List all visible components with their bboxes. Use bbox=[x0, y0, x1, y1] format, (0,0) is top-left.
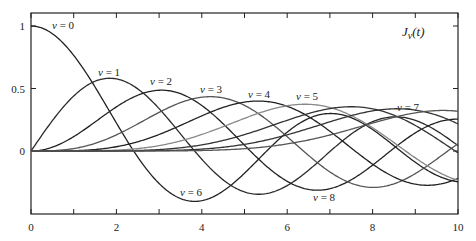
curve-label-v5: v = 5 bbox=[296, 90, 319, 102]
axis-tick-labels: 024681010.50 bbox=[11, 20, 464, 233]
bessel-chart: 024681010.50 v = 0v = 1v = 2v = 3v = 4v … bbox=[0, 0, 476, 241]
bessel-curves bbox=[31, 26, 458, 201]
x-tick-label: 0 bbox=[28, 221, 34, 233]
y-tick-label: 0 bbox=[20, 145, 26, 157]
x-tick-label: 6 bbox=[284, 221, 290, 233]
curve-label-v3: v = 3 bbox=[200, 83, 223, 95]
curve-label-v2: v = 2 bbox=[150, 75, 172, 87]
x-tick-label: 10 bbox=[453, 221, 465, 233]
x-tick-label: 2 bbox=[114, 221, 120, 233]
x-tick-label: 4 bbox=[199, 221, 205, 233]
y-tick-label: 0.5 bbox=[11, 83, 25, 95]
curve-label-v7: v = 7 bbox=[397, 101, 420, 113]
curve-v0 bbox=[31, 26, 458, 201]
curve-label-v4: v = 4 bbox=[248, 88, 271, 100]
curve-label-v8: v = 8 bbox=[313, 191, 336, 203]
curve-labels: v = 0v = 1v = 2v = 3v = 4v = 5v = 6v = 7… bbox=[52, 19, 420, 203]
curve-label-v6: v = 6 bbox=[180, 186, 203, 198]
curve-label-v0: v = 0 bbox=[52, 19, 75, 31]
y-tick-label: 1 bbox=[20, 20, 26, 32]
curve-label-v1: v = 1 bbox=[98, 66, 120, 78]
chart-title: Jv(t) bbox=[402, 24, 425, 41]
x-tick-label: 8 bbox=[370, 221, 376, 233]
